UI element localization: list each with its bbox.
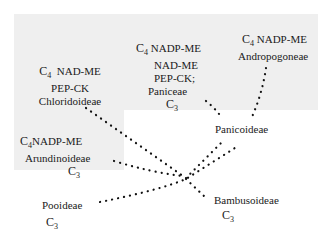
paniceae-label: C4 NADP-ME NAD-ME PEP-CK; Paniceae C3 <box>136 42 216 115</box>
chloridoideae-label: C4 NAD-ME PEP-CK Chloridoideae <box>34 65 106 108</box>
andropogoneae-label: C4 NADP-ME Andropogoneae <box>238 33 308 63</box>
branch-andropogoneae <box>251 68 266 119</box>
branch-arundinoideae <box>114 161 182 176</box>
panicoideae-label: Panicoideae <box>215 123 268 136</box>
bambusoideae-label: Bambusoideae C3 <box>214 194 279 226</box>
pooideae-label: Pooideae C3 <box>42 199 82 233</box>
branch-bambusoideae <box>186 179 205 197</box>
arundinoideae-label: C4NADP-ME Arundinoideae C3 <box>20 135 90 182</box>
branch-chloridoideae <box>86 108 183 176</box>
